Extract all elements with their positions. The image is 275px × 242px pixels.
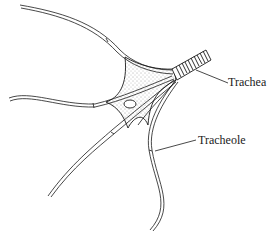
tracheole-branches	[9, 5, 178, 231]
nucleus	[124, 100, 136, 108]
tracheal-cell-diagram	[0, 0, 275, 242]
trachea-tube	[172, 50, 211, 80]
tracheole-leader-line	[155, 140, 196, 151]
trachea-leader-line	[196, 70, 228, 83]
trachea-label: Trachea	[228, 75, 266, 90]
tracheole-label: Tracheole	[198, 133, 246, 148]
